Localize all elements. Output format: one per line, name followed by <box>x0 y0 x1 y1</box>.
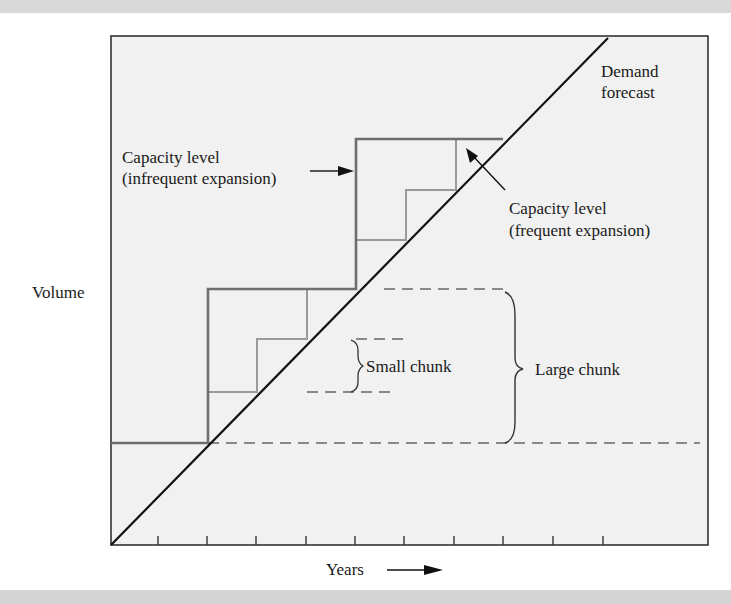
infrequent-label-1: Capacity level <box>122 148 220 167</box>
demand-forecast-label-1: Demand <box>601 62 659 81</box>
frequent-label-1: Capacity level <box>509 199 607 218</box>
infrequent-label-2: (infrequent expansion) <box>122 169 276 188</box>
small-chunk-label: Small chunk <box>366 357 452 376</box>
x-axis-label: Years <box>326 560 364 579</box>
capacity-expansion-diagram: Demand forecast Capacity level (infreque… <box>0 0 731 604</box>
demand-forecast-label-2: forecast <box>601 83 655 102</box>
frequent-label-2: (frequent expansion) <box>509 221 650 240</box>
plot-frame <box>111 36 708 545</box>
large-chunk-label: Large chunk <box>535 360 621 379</box>
y-axis-label: Volume <box>32 283 85 302</box>
years-arrow-icon <box>387 565 443 575</box>
